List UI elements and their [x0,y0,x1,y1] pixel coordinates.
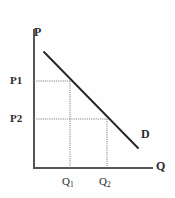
quantity-tick-q2-base: Q [99,175,107,187]
price-tick-label-p2: P2 [10,113,22,124]
demand-curve-label: D [141,128,150,140]
quantity-tick-q1-subscript: 1 [70,180,74,189]
quantity-tick-label-q1: Q1 [62,176,74,187]
price-tick-label-p1: P1 [10,75,22,86]
quantity-tick-label-q2: Q2 [99,176,111,187]
price-axis-label: P [34,26,41,38]
demand-curve-line [44,52,138,148]
chart-canvas [0,0,175,198]
quantity-tick-q1-base: Q [62,175,70,187]
quantity-tick-q2-subscript: 2 [107,180,111,189]
demand-curve-figure: P Q P1 P2 D Q1 Q2 [0,0,175,198]
quantity-axis-label: Q [156,160,165,172]
